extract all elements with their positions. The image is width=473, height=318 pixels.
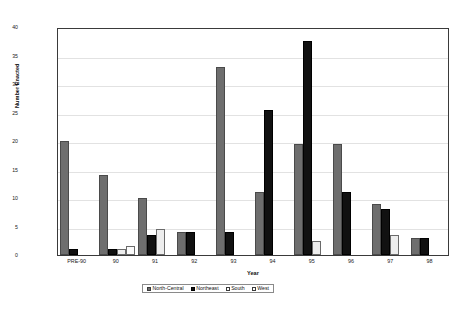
legend-item: North-Central bbox=[147, 286, 184, 291]
bar-groups bbox=[58, 29, 448, 255]
bar-group bbox=[58, 29, 97, 255]
bar bbox=[264, 110, 273, 255]
bar bbox=[342, 192, 351, 255]
bar bbox=[411, 238, 420, 255]
x-axis-tick-label: 91 bbox=[135, 258, 174, 264]
bar-group bbox=[409, 29, 448, 255]
bar-group bbox=[370, 29, 409, 255]
bar bbox=[126, 246, 135, 255]
x-axis-tick-label: PRE-90 bbox=[57, 258, 96, 264]
bar bbox=[294, 144, 303, 255]
bar bbox=[216, 67, 225, 255]
bar bbox=[108, 249, 117, 255]
bar bbox=[333, 144, 342, 255]
legend-label: North-Central bbox=[153, 286, 184, 291]
bar bbox=[69, 249, 78, 255]
chart-legend: North-CentralNortheastSouthWest bbox=[142, 284, 274, 293]
y-axis-tick-label: 30 bbox=[0, 82, 18, 87]
bar bbox=[381, 209, 390, 255]
x-axis-tick-label: 96 bbox=[331, 258, 370, 264]
y-axis-tick-label: 20 bbox=[0, 139, 18, 144]
bar bbox=[303, 41, 312, 255]
x-axis-tick-label: 92 bbox=[175, 258, 214, 264]
bar bbox=[372, 204, 381, 255]
y-axis-tick-label: 35 bbox=[0, 54, 18, 59]
bar bbox=[117, 249, 126, 255]
bar-group bbox=[331, 29, 370, 255]
legend-item: West bbox=[252, 286, 269, 291]
bar bbox=[186, 232, 195, 255]
y-axis-tick-label: 15 bbox=[0, 168, 18, 173]
bar bbox=[138, 198, 147, 255]
bar bbox=[225, 232, 234, 255]
x-axis-tick-label: 98 bbox=[410, 258, 449, 264]
bar bbox=[60, 141, 69, 255]
legend-swatch-icon bbox=[252, 287, 256, 291]
x-axis-label: Year bbox=[57, 270, 449, 276]
bar-group bbox=[97, 29, 136, 255]
legend-item: South bbox=[226, 286, 245, 291]
x-axis-tick-label: 93 bbox=[214, 258, 253, 264]
bar bbox=[312, 241, 321, 255]
legend-label: South bbox=[231, 286, 245, 291]
bar-group bbox=[136, 29, 175, 255]
bar bbox=[255, 192, 264, 255]
bar bbox=[99, 175, 108, 255]
plot-area bbox=[57, 28, 449, 256]
legend-item: Northeast bbox=[191, 286, 219, 291]
x-axis-tick-label: 94 bbox=[253, 258, 292, 264]
bar-group bbox=[292, 29, 331, 255]
x-axis-tick-label: 95 bbox=[292, 258, 331, 264]
y-axis-tick-label: 0 bbox=[0, 253, 18, 258]
chart-figure: Number Enacted PRE-90909192939495969798 … bbox=[0, 0, 473, 318]
x-axis-tick-label: 90 bbox=[96, 258, 135, 264]
bar bbox=[156, 229, 165, 255]
bar bbox=[147, 235, 156, 255]
bar bbox=[420, 238, 429, 255]
bar-group bbox=[175, 29, 214, 255]
legend-swatch-icon bbox=[191, 287, 195, 291]
bar-group bbox=[253, 29, 292, 255]
x-axis-ticks: PRE-90909192939495969798 bbox=[57, 258, 449, 264]
legend-label: West bbox=[257, 286, 269, 291]
y-axis-tick-label: 25 bbox=[0, 111, 18, 116]
legend-swatch-icon bbox=[147, 287, 151, 291]
y-axis-tick-label: 5 bbox=[0, 225, 18, 230]
y-axis-tick-label: 40 bbox=[0, 25, 18, 30]
bar bbox=[177, 232, 186, 255]
legend-label: Northeast bbox=[196, 286, 219, 291]
bar bbox=[390, 235, 399, 255]
y-axis-tick-label: 10 bbox=[0, 196, 18, 201]
legend-swatch-icon bbox=[226, 287, 230, 291]
bar-group bbox=[214, 29, 253, 255]
x-axis-tick-label: 97 bbox=[371, 258, 410, 264]
